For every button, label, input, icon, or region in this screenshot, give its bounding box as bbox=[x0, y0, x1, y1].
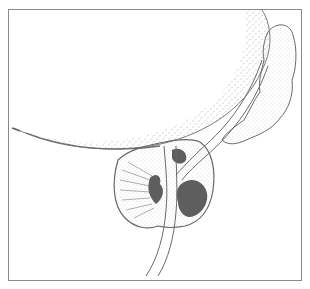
anatomy-illustration bbox=[0, 0, 310, 289]
bladder bbox=[12, 10, 270, 149]
prostate bbox=[114, 140, 214, 228]
